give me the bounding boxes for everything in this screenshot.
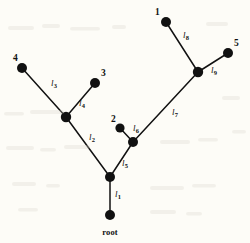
node-dot-node-d: [193, 67, 203, 77]
branch-line-group: [22, 22, 228, 215]
phylogenetic-tree-figure: l1l2l3l4l5l6l7l8l9 12345root: [0, 0, 250, 243]
node-dot-node-a: [105, 172, 115, 182]
branch-line-l9: [198, 53, 228, 72]
node-dot-tip-1: [161, 17, 171, 27]
node-dot-node-c: [128, 137, 138, 147]
node-dot-group: [17, 17, 233, 220]
branch-line-l4: [66, 83, 95, 117]
tree-diagram-canvas: [0, 0, 250, 243]
node-dot-node-b: [61, 112, 71, 122]
branch-line-l7: [133, 72, 198, 142]
branch-line-l3: [22, 68, 66, 117]
branch-line-l2: [66, 117, 110, 177]
branch-line-l5: [110, 142, 133, 177]
node-dot-tip-5: [223, 48, 233, 58]
node-dot-tip-2: [115, 123, 124, 132]
node-dot-tip-4: [17, 63, 27, 73]
branch-line-l8: [166, 22, 198, 72]
node-dot-node-root: [105, 210, 115, 220]
node-dot-tip-3: [90, 78, 100, 88]
